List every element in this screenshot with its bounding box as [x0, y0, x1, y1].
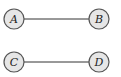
node-d-label: D: [94, 56, 104, 69]
node-a-label: A: [9, 13, 18, 26]
node-b-label: B: [94, 13, 103, 26]
node-b: B: [89, 9, 109, 29]
node-a: A: [4, 9, 24, 29]
node-c-label: C: [10, 56, 19, 69]
node-d: D: [89, 52, 109, 72]
graph-diagram: A B C D: [0, 0, 121, 77]
node-c: C: [4, 52, 24, 72]
